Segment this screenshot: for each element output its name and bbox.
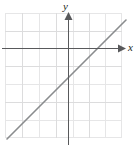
plotted-line (7, 20, 126, 139)
graph-figure: y x (0, 0, 137, 145)
x-axis (2, 45, 126, 53)
x-axis-label: x (128, 42, 133, 53)
coordinate-plane-svg (0, 0, 137, 145)
grid-lines-major (5, 13, 122, 138)
y-axis-label: y (63, 1, 68, 12)
